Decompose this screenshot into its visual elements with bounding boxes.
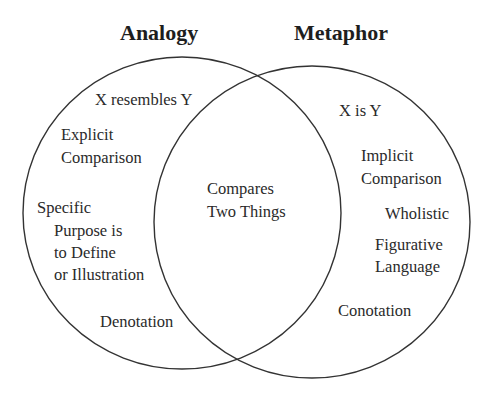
metaphor-item-wholistic: Wholistic [385,204,449,223]
analogy-item-denotation: Denotation [100,312,173,331]
analogy-item-purpose-line2: to Define [54,243,116,262]
analogy-item-purpose-line1: Purpose is [54,221,122,240]
analogy-title: Analogy [120,20,198,45]
venn-diagram: Analogy Metaphor X resembles Y Explicit … [0,0,492,396]
overlap-item-compares-line1: Compares [207,179,274,198]
metaphor-item-implicit-line1: Implicit [361,146,414,165]
analogy-item-purpose-line3: or Illustration [54,265,144,284]
metaphor-item-implicit-line2: Comparison [361,169,442,188]
analogy-item-specific: Specific [37,198,91,217]
analogy-item-explicit-line1: Explicit [61,125,114,144]
analogy-item-resembles: X resembles Y [95,90,193,109]
metaphor-item-figurative-line1: Figurative [375,235,443,254]
metaphor-item-figurative-line2: Language [375,257,440,276]
metaphor-item-conotation: Conotation [338,301,411,320]
metaphor-item-is: X is Y [339,101,382,120]
analogy-item-explicit-line2: Comparison [61,148,142,167]
metaphor-title: Metaphor [294,20,388,45]
overlap-item-compares-line2: Two Things [207,202,286,221]
